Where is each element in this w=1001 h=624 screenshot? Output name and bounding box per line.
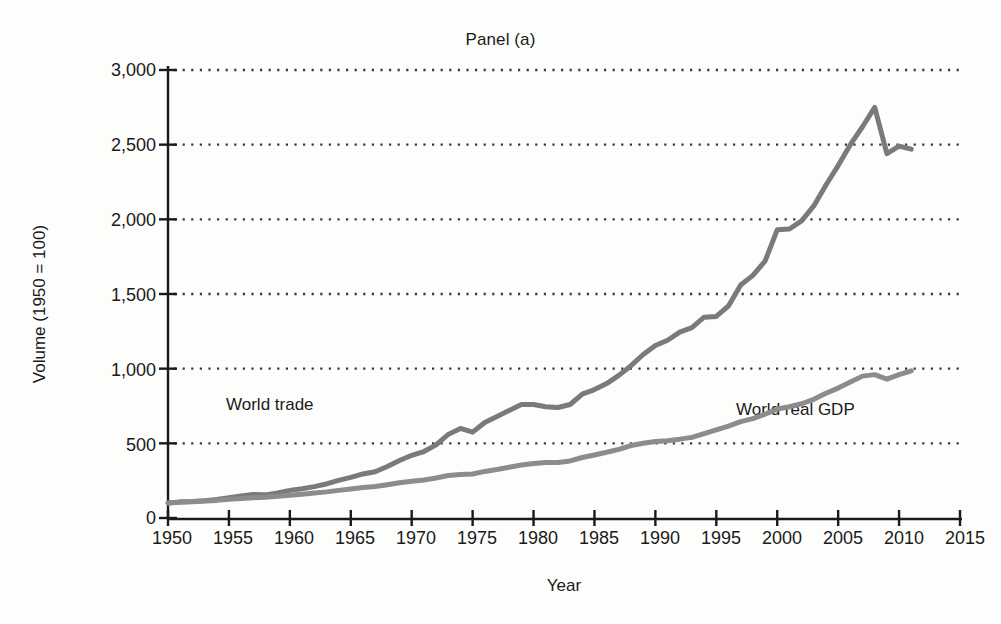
line-world-real-gdp	[168, 371, 911, 503]
line-world-trade	[168, 107, 911, 503]
figure-canvas: Panel (a) Volume (1950 = 100) 0 500 1,00…	[0, 0, 1001, 624]
tick-marks	[159, 70, 960, 526]
plot-area	[0, 0, 1001, 624]
